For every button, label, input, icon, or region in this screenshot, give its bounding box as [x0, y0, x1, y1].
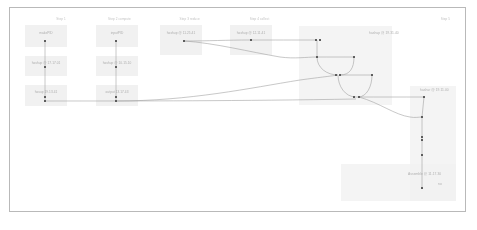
edge-e5 [184, 41, 317, 58]
lane-title-lane4: Step 4 collect [250, 17, 270, 21]
edge-e13 [45, 99, 356, 101]
edge-e3 [184, 40, 251, 41]
edge-e14 [116, 75, 338, 101]
node-marker-m3[interactable] [44, 96, 46, 98]
node-marker-m10[interactable] [250, 39, 252, 41]
diagram-stage: hashup @ 19.31.40hashur @ 19.11.00Assemb… [0, 0, 477, 230]
node-marker-m9[interactable] [183, 40, 185, 42]
node-marker-m6[interactable] [115, 66, 117, 68]
edge-e7 [317, 57, 338, 75]
lane-title-lane1: Step 1 [56, 17, 65, 21]
node-marker-m7[interactable] [115, 96, 117, 98]
lane-title-lane2: Step 2 compute [108, 17, 131, 21]
node-marker-m4[interactable] [44, 100, 46, 102]
lane-title-lane5: Step 5 [441, 17, 450, 21]
node-marker-m8[interactable] [115, 100, 117, 102]
edge-e17 [422, 97, 424, 117]
edge-e8 [340, 57, 354, 75]
edge-e16 [359, 97, 422, 117]
edge-e10 [338, 75, 356, 97]
edges-layer [0, 0, 477, 230]
node-marker-m5[interactable] [115, 40, 117, 42]
lane-title-lane3: Step 3 reduce [180, 17, 200, 21]
node-marker-m2[interactable] [44, 66, 46, 68]
edge-e11 [358, 75, 372, 97]
